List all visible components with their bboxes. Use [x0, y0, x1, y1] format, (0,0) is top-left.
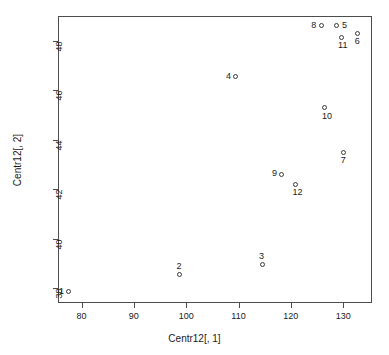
- x-axis-tick: [186, 303, 187, 308]
- x-axis-tick: [82, 303, 83, 308]
- x-axis-tick: [343, 303, 344, 308]
- data-point-marker: [233, 74, 238, 79]
- data-point-label: 7: [341, 156, 346, 165]
- data-point-label: 5: [342, 21, 347, 30]
- scatter-plot-figure: 8090100110120130384042444648 12345678910…: [0, 0, 389, 355]
- data-point-marker: [355, 31, 360, 36]
- data-point-marker: [334, 23, 339, 28]
- x-axis-tick: [291, 303, 292, 308]
- y-axis-title: Centr12[, 2]: [6, 0, 18, 355]
- x-axis-tick-label: 80: [77, 312, 87, 321]
- data-point-label: 10: [322, 112, 332, 121]
- data-point-label: 1: [59, 287, 64, 296]
- data-point-label: 11: [338, 41, 347, 50]
- data-points-layer: 123456789101112: [58, 16, 372, 303]
- data-point-label: 9: [272, 169, 277, 178]
- data-point-marker: [319, 23, 324, 28]
- data-point-marker: [260, 262, 265, 267]
- y-axis-title-text: Centr12[, 2]: [12, 134, 23, 186]
- x-axis-tick-label: 100: [179, 312, 194, 321]
- x-axis-tick-label: 120: [283, 312, 298, 321]
- data-point-label: 4: [226, 72, 231, 81]
- data-point-marker: [339, 35, 344, 40]
- data-point-label: 2: [176, 262, 181, 271]
- x-axis-tick: [134, 303, 135, 308]
- data-point-marker: [66, 289, 71, 294]
- data-point-label: 12: [293, 188, 303, 197]
- data-point-label: 6: [355, 37, 360, 46]
- x-axis-title: Centr12[, 1]: [0, 333, 389, 344]
- x-axis-tick-label: 90: [129, 312, 139, 321]
- data-point-marker: [341, 150, 346, 155]
- data-point-marker: [322, 105, 327, 110]
- data-point-label: 3: [259, 252, 264, 261]
- data-point-marker: [293, 182, 298, 187]
- x-axis-tick-label: 130: [336, 312, 351, 321]
- x-axis-tick: [239, 303, 240, 308]
- data-point-marker: [279, 172, 284, 177]
- x-axis-tick-label: 110: [231, 312, 245, 321]
- data-point-marker: [177, 272, 182, 277]
- data-point-label: 8: [311, 21, 316, 30]
